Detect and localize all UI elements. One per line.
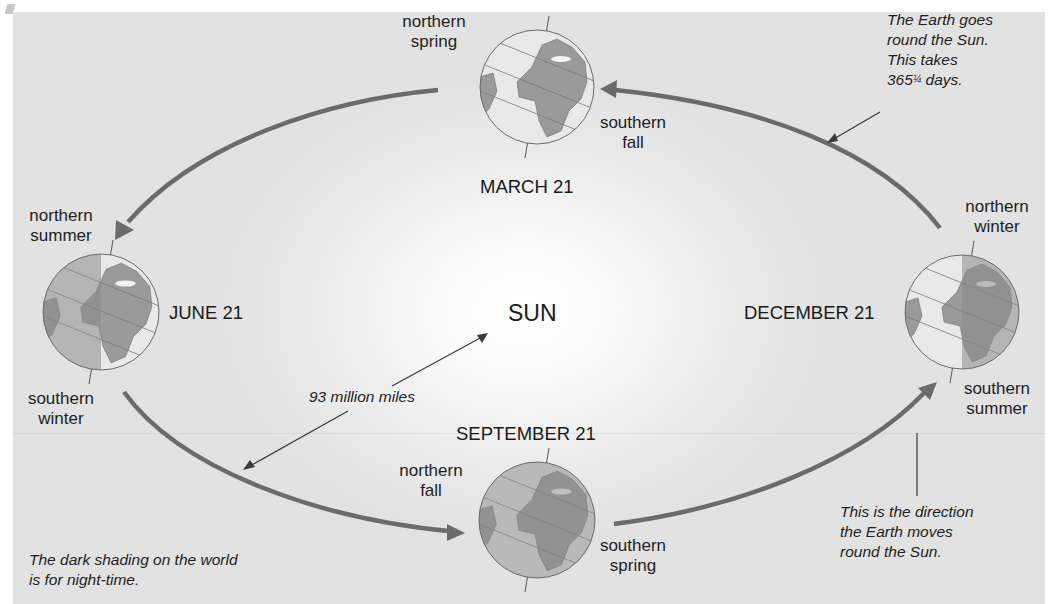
globe-march [480,16,594,158]
september-north-line1: northern [396,461,466,481]
june-south-line1: southern [18,389,104,409]
globe-surface [479,462,595,578]
march-north-line1: northern [389,12,479,32]
december-north-line2: winter [952,217,1042,237]
orbit-note-line3: This takes [887,50,993,70]
globe-surface [480,30,594,144]
december-south-line1: southern [952,379,1042,399]
september-north-line2: fall [396,481,466,501]
shading-note: The dark shading on the world is for nig… [29,550,238,590]
june-date-label: JUNE 21 [169,302,243,324]
march-north-line2: spring [389,32,479,52]
shading-note-line1: The dark shading on the world [29,550,238,570]
pointer-distance-to-sun [392,337,482,386]
june-south-season: southern winter [18,389,104,429]
march-date-label: MARCH 21 [480,176,574,198]
june-north-line1: northern [18,206,104,226]
direction-note-line1: This is the direction [840,502,974,522]
pointer-distance-to-orbit [250,411,348,466]
globe-surface [43,254,159,370]
globe-december [905,241,1019,383]
orbit-arrow-december-to-march [615,90,940,228]
direction-note-line3: round the Sun. [840,542,974,562]
september-north-season: northern fall [396,461,466,501]
december-north-line1: northern [952,197,1042,217]
direction-note: This is the direction the Earth moves ro… [840,502,974,562]
orbit-days-unit: days. [921,71,962,88]
distance-note: 93 million miles [309,387,415,407]
december-date-label: DECEMBER 21 [744,302,875,324]
december-south-line2: summer [952,399,1042,419]
september-south-season: southern spring [588,536,678,576]
orbit-duration-note: The Earth goes round the Sun. This takes… [887,10,993,90]
march-south-line1: southern [588,113,678,133]
orbit-days-number: 365 [887,71,913,88]
march-south-season: southern fall [588,113,678,153]
arrowhead-june [115,220,134,240]
orbit-arrow-march-to-june [128,90,438,222]
globe-june [43,240,159,384]
night-shading [962,255,1019,369]
pointer-distance-sun-head [477,333,488,343]
pointer-distance-orbit-head [243,460,255,470]
orbit-note-line4: 365¼ days. [887,70,993,90]
night-shading [479,462,595,578]
sun-label: SUN [508,300,557,326]
shading-note-line2: is for night-time. [29,570,238,590]
arrowhead-september [447,524,465,541]
june-north-line2: summer [18,226,104,246]
mediterranean-sea [115,280,135,286]
globe-surface [905,255,1019,369]
orbit-days-fraction: ¼ [913,74,921,85]
december-south-season: southern summer [952,379,1042,419]
orbit-note-line1: The Earth goes [887,10,993,30]
december-north-season: northern winter [952,197,1042,237]
march-south-line2: fall [588,133,678,153]
pointer-orbit-head [827,133,838,143]
mediterranean-sea [551,56,571,62]
orbit-note-line2: round the Sun. [887,30,993,50]
arrowhead-march [600,80,617,98]
night-shading [43,254,101,370]
direction-note-line2: the Earth moves [840,522,974,542]
march-north-season: northern spring [389,12,479,52]
june-south-line2: winter [18,409,104,429]
june-north-season: northern summer [18,206,104,246]
september-south-line1: southern [588,536,678,556]
globe-september [479,448,595,592]
september-south-line2: spring [588,556,678,576]
september-date-label: SEPTEMBER 21 [456,423,596,445]
pointer-orbit-note [832,112,880,140]
